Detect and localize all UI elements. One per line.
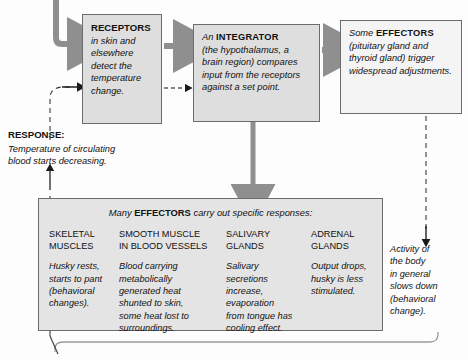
column-header: SALIVARY GLANDS (226, 229, 304, 252)
effector-column-smooth-muscle: SMOOTH MUSCLE IN BLOOD VESSELS Blood car… (119, 229, 227, 335)
panel-title: Many EFFECTORS carry out specific respon… (39, 207, 382, 218)
receptors-heading: RECEPTORS (91, 22, 151, 33)
panel-title-tail: carry out specific responses: (191, 207, 312, 218)
activity-note: Activity of the body in general slows do… (390, 243, 464, 317)
column-body: Output drops, husky is less stimulated. (311, 260, 381, 297)
effectors-box[interactable]: Some EFFECTORS (pituitary gland and thyr… (340, 20, 462, 114)
receptors-box[interactable]: RECEPTORS in skin and elsewhere detect t… (82, 14, 162, 124)
integrator-lead: An (202, 32, 216, 42)
receptors-body: in skin and elsewhere detect the tempera… (91, 36, 141, 96)
bottom-return-bracket (50, 332, 438, 354)
effectors-responses-panel[interactable]: Many EFFECTORS carry out specific respon… (38, 198, 383, 331)
column-header: SMOOTH MUSCLE IN BLOOD VESSELS (119, 229, 227, 252)
effectors-heading: EFFECTORS (376, 28, 434, 38)
effectors-body: (pituitary gland and thyroid gland) trig… (349, 41, 452, 76)
column-header: SKELETAL MUSCLES (49, 229, 115, 252)
effector-column-skeletal-muscles: SKELETAL MUSCLES Husky rests, starts to … (49, 229, 115, 310)
effectors-lead: Some (349, 28, 376, 38)
effector-column-adrenal-glands: ADRENAL GLANDS Output drops, husky is le… (311, 229, 381, 297)
panel-title-bold: EFFECTORS (134, 207, 191, 218)
column-body: Husky rests, starts to pant (behavioral … (49, 260, 115, 310)
response-note: RESPONSE: Temperature of circulating blo… (8, 128, 178, 167)
column-body: Blood carrying metabolically generated h… (119, 260, 227, 334)
integrator-heading: INTEGRATOR (216, 32, 279, 42)
effector-column-salivary-glands: SALIVARY GLANDS Salivary secretions incr… (226, 229, 304, 335)
response-heading: RESPONSE: (8, 128, 178, 141)
column-body: Salivary secretions increase, evaporatio… (226, 260, 304, 334)
integrator-box[interactable]: An INTEGRATOR (the hypothalamus, a brain… (193, 24, 320, 122)
inflow-arrow (56, 0, 74, 44)
diagram-canvas: RECEPTORS in skin and elsewhere detect t… (0, 0, 468, 360)
integrator-body: (the hypothalamus, a brain region) compa… (202, 45, 300, 93)
panel-title-lead: Many (109, 207, 135, 218)
column-header: ADRENAL GLANDS (311, 229, 381, 252)
response-body: Temperature of circulating blood starts … (8, 143, 178, 167)
